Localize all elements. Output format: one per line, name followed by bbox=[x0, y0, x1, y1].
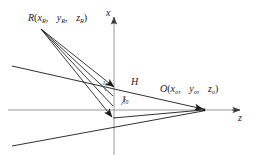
geometry-diagram-svg bbox=[0, 0, 255, 161]
length-label-l-zero: l0 bbox=[123, 95, 128, 105]
point-H-name: H bbox=[131, 76, 138, 87]
ray-r-3 bbox=[41, 29, 113, 106]
l-zero-sub: 0 bbox=[126, 99, 129, 105]
length-label-l-R: lR bbox=[103, 80, 108, 88]
point-label-H: H bbox=[131, 77, 138, 87]
ray-bundle-from-R bbox=[41, 29, 114, 117]
point-label-R: R(xR, yR, zR) bbox=[28, 13, 87, 24]
axis-label-x: x bbox=[106, 8, 110, 18]
l-R-sub: R bbox=[105, 82, 108, 87]
axis-label-x-text: x bbox=[106, 7, 110, 18]
axis-label-z-text: z bbox=[238, 112, 242, 123]
point-label-O: O(xo, yo, zo) bbox=[160, 84, 218, 95]
point-O-marker bbox=[203, 109, 206, 112]
wedge-group bbox=[12, 66, 203, 146]
ray-r-4 bbox=[41, 29, 112, 117]
wedge-chord-line bbox=[113, 110, 203, 118]
wedge-lower-line bbox=[12, 111, 203, 146]
diagram-canvas: R(xR, yR, zR) O(xo, yo, zo) H l0 lR x z bbox=[0, 0, 255, 161]
axis-label-z: z bbox=[238, 113, 242, 123]
